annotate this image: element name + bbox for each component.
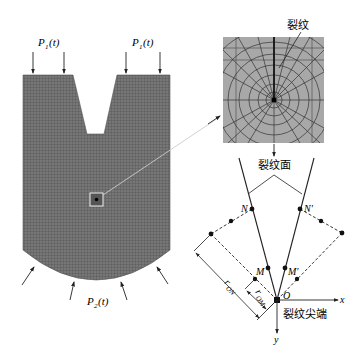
svg-text:1: 1 (139, 43, 143, 51)
svg-text:1: 1 (45, 43, 49, 51)
load-label-bottom: P 2 (t) (86, 295, 109, 310)
label-M-prime: M' (287, 266, 299, 277)
label-N: N (240, 203, 249, 214)
svg-text:P: P (86, 295, 94, 307)
svg-text:(t): (t) (143, 36, 154, 49)
svg-text:P: P (131, 36, 139, 48)
crack-tip-marker (95, 198, 99, 202)
svg-text:(t): (t) (98, 295, 109, 308)
svg-text:P: P (37, 36, 45, 48)
svg-text:OM: OM (254, 294, 267, 308)
crack-face-label: 裂纹面 (258, 158, 291, 172)
crack-tip-label: 裂纹尖端 (283, 307, 327, 321)
label-M: M (255, 266, 265, 277)
mesh-body (23, 75, 170, 280)
crack-label: 裂纹 (287, 18, 309, 32)
crack-face-leader (248, 175, 302, 194)
top-load-arrows (33, 52, 160, 73)
label-r-ON: r ON (220, 277, 241, 298)
crack-face-left (239, 158, 277, 300)
label-r-OM: r OM (251, 287, 272, 309)
x-axis-label: x (339, 294, 345, 305)
load-label-top-left: P 1 (t) (37, 36, 60, 51)
crack-fem-diagram: P 1 (t) P 1 (t) P 2 (t) (0, 0, 362, 356)
svg-text:(t): (t) (49, 36, 60, 49)
label-N-prime: N' (303, 203, 314, 214)
load-label-top-right: P 1 (t) (131, 36, 154, 51)
label-O: O (283, 290, 290, 301)
y-axis-label: y (273, 334, 279, 345)
